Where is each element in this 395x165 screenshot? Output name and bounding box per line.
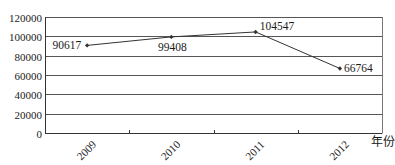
y-tick-label: 0 [37,128,43,140]
data-label: 99408 [158,41,187,53]
x-tick-label: 2010 [159,138,183,162]
data-labels: 906179940810454766764 [52,20,373,75]
data-point-marker [338,66,342,70]
x-tick-label: 2012 [327,138,351,162]
y-tick-label: 40000 [15,89,43,101]
y-tick-label: 80000 [15,51,43,63]
y-tick-label: 100000 [9,31,43,43]
x-tick-label: 2011 [243,138,267,162]
x-axis-tick-labels: 2009201020112012 [74,138,351,162]
y-tick-label: 120000 [9,12,43,24]
data-label: 90617 [52,39,81,51]
data-point-marker [85,43,89,47]
data-label: 66764 [344,62,373,74]
data-point-marker [169,35,173,39]
x-tick-label: 2009 [74,138,98,162]
y-tick-label: 60000 [15,70,43,82]
y-tick-label: 20000 [15,109,43,121]
data-label: 104547 [260,20,295,32]
gridlines [45,18,382,115]
line-chart: 020000400006000080000100000120000 200920… [0,0,395,165]
data-series [85,30,342,71]
y-axis-tick-labels: 020000400006000080000100000120000 [9,12,43,140]
data-point-marker [253,30,257,34]
x-axis-title: 年份 [371,135,395,149]
series-line [87,32,340,69]
